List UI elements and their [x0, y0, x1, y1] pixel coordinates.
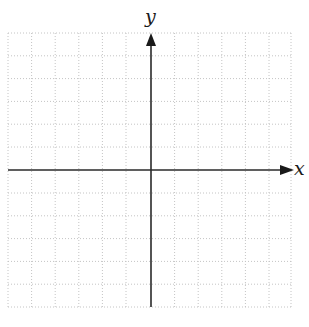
axes — [8, 44, 284, 307]
y-axis-label: y — [145, 7, 156, 26]
y-axis-arrow-icon — [146, 33, 156, 46]
x-axis-label: x — [294, 159, 305, 178]
x-axis-arrow-icon — [280, 165, 294, 175]
grid-and-axes — [0, 0, 309, 327]
